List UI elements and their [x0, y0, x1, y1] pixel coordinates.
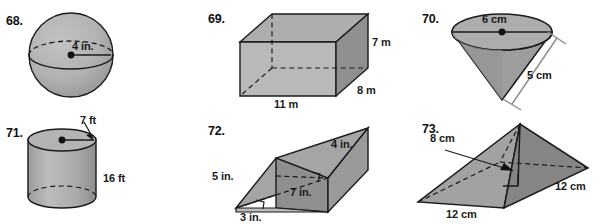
cylinder-drawing — [0, 112, 200, 224]
slant-bracket-tick-bottom — [503, 99, 521, 110]
label-prism-height: 7 m — [372, 36, 391, 48]
label-cylinder-height: 16 ft — [103, 172, 125, 184]
figure-71: 71. 7 ft 16 ft — [0, 112, 200, 224]
slant-bracket-tick-top — [548, 32, 566, 44]
prism-front-face — [240, 42, 336, 96]
label-cone-diameter: 6 cm — [482, 13, 507, 25]
square-pyramid-drawing — [400, 112, 602, 224]
cone-center-dot — [499, 29, 506, 36]
figure-70: 70. 6 cm 5 cm — [400, 0, 602, 112]
label-cylinder-radius: 7 ft — [80, 114, 96, 126]
label-cone-slant-height: 5 cm — [527, 69, 552, 81]
figure-69: 69. 7 m 8 m 11 m — [200, 0, 400, 112]
label-pyramid-height: 8 cm — [430, 132, 455, 144]
cylinder-center-dot — [59, 137, 66, 144]
label-pyramid-base-side-right: 12 cm — [555, 180, 586, 192]
figure-72: 72. 4 in. 5 in. 7 in. 3 in. — [200, 112, 400, 224]
label-pyramid-base-side-front: 12 cm — [446, 208, 477, 220]
label-tprism-hypotenuse: 5 in. — [212, 170, 234, 182]
figure-68: 68. 4 in. — [0, 0, 200, 112]
label-tprism-length: 7 in. — [290, 186, 312, 198]
figures-sheet: 68. 4 in. 69. — [0, 0, 602, 224]
label-sphere-radius: 4 in. — [72, 40, 94, 52]
label-prism-depth: 8 m — [357, 84, 376, 96]
label-tprism-leg-base: 3 in. — [240, 211, 262, 223]
sphere-drawing — [0, 0, 200, 112]
label-prism-width: 11 m — [274, 98, 298, 110]
label-tprism-leg-vertical: 4 in. — [331, 138, 353, 150]
sphere-center-dot — [68, 52, 75, 59]
triangular-prism-drawing — [200, 112, 400, 224]
figure-73: 73. 8 cm 12 cm 12 cm — [400, 112, 602, 224]
